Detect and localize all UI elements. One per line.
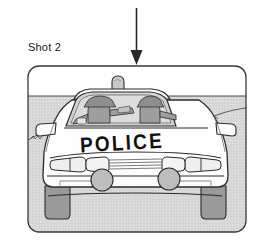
roof-light-bar: [112, 76, 124, 90]
mirror-left: [36, 123, 56, 136]
illustration-stage: POLICE: [0, 0, 273, 246]
fog-light-right: [158, 168, 180, 190]
tire-left: [45, 184, 70, 219]
shot-label: Shot 2: [28, 42, 61, 53]
down-arrow-icon: [131, 8, 143, 65]
panel-contents: POLICE: [28, 66, 246, 232]
scene-svg: POLICE: [0, 0, 273, 246]
tire-right: [201, 184, 226, 219]
fog-light-left: [91, 169, 113, 191]
steering-wheel: [77, 118, 86, 124]
